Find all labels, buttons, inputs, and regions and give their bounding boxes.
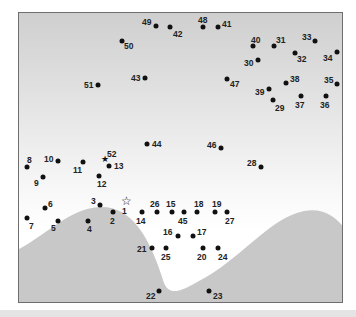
dot-label: 41	[222, 20, 231, 29]
dot-label: 47	[230, 80, 239, 89]
dot-4[interactable]	[86, 219, 91, 224]
dot-label: 46	[207, 141, 216, 150]
dot-43[interactable]	[143, 76, 148, 81]
dot-3[interactable]	[98, 203, 103, 208]
dot-label: 8	[27, 156, 32, 165]
dot-14[interactable]	[140, 210, 145, 215]
dot-label: 12	[97, 180, 106, 189]
dot-label: 6	[48, 200, 53, 209]
hills-background	[19, 13, 343, 303]
dot-label: 1	[122, 207, 127, 216]
dot-label: 30	[244, 59, 253, 68]
dot-label: 44	[152, 140, 161, 149]
dot-37[interactable]	[299, 94, 304, 99]
dot-label: 51	[84, 81, 93, 90]
dot-21[interactable]	[150, 246, 155, 251]
puzzle-canvas[interactable]: ☆123456789101112131415161718192021222324…	[18, 12, 343, 303]
dot-label: 9	[34, 179, 39, 188]
dot-label: 5	[51, 224, 56, 233]
dot-47[interactable]	[225, 77, 230, 82]
dot-51[interactable]	[96, 83, 101, 88]
dot-label: 2	[110, 217, 115, 226]
dot-label: 52	[107, 150, 116, 159]
dot-46[interactable]	[219, 146, 224, 151]
dot-label: 34	[323, 54, 332, 63]
dot-26[interactable]	[155, 210, 160, 215]
dot-33[interactable]	[313, 39, 318, 44]
dot-16[interactable]	[176, 234, 181, 239]
dot-30[interactable]	[256, 58, 261, 63]
dot-19[interactable]	[213, 210, 218, 215]
dot-label: 23	[213, 292, 222, 301]
dot-label: 11	[73, 166, 82, 175]
dot-39[interactable]	[267, 87, 272, 92]
dot-38[interactable]	[284, 81, 289, 86]
dot-20[interactable]	[201, 246, 206, 251]
dot-label: 28	[247, 159, 256, 168]
dot-5[interactable]	[56, 219, 61, 224]
dot-49[interactable]	[154, 24, 159, 29]
dot-label: 45	[178, 217, 187, 226]
dot-label: 42	[173, 30, 182, 39]
dot-12[interactable]	[97, 174, 102, 179]
dot-45[interactable]	[182, 210, 187, 215]
dot-label: 24	[218, 253, 227, 262]
dot-label: 32	[297, 55, 306, 64]
dot-27[interactable]	[225, 210, 230, 215]
dot-label: 37	[295, 101, 304, 110]
dot-label: 16	[163, 228, 172, 237]
dot-label: 48	[198, 16, 207, 25]
dot-44[interactable]	[145, 142, 150, 147]
dot-label: 15	[166, 200, 175, 209]
dot-label: 27	[225, 217, 234, 226]
dot-23[interactable]	[207, 289, 212, 294]
dot-label: 40	[251, 36, 260, 45]
dot-label: 7	[29, 222, 34, 231]
dot-label: 25	[161, 253, 170, 262]
dot-15[interactable]	[170, 210, 175, 215]
dot-2[interactable]	[111, 210, 116, 215]
dot-label: 26	[150, 200, 159, 209]
dot-label: 36	[320, 101, 329, 110]
dot-6[interactable]	[43, 206, 48, 211]
dot-label: 38	[290, 75, 299, 84]
dot-label: 4	[87, 225, 92, 234]
dot-label: 14	[136, 217, 145, 226]
dot-label: 19	[212, 200, 221, 209]
dot-label: 22	[146, 292, 155, 301]
dot-label: 17	[197, 228, 206, 237]
dot-24[interactable]	[216, 246, 221, 251]
dot-label: 29	[275, 104, 284, 113]
dot-11[interactable]	[81, 160, 86, 165]
dot-41[interactable]	[216, 25, 221, 30]
dot-28[interactable]	[259, 165, 264, 170]
dot-label: 3	[91, 197, 96, 206]
dot-label: 39	[255, 88, 264, 97]
dot-label: 21	[137, 245, 146, 254]
dot-8[interactable]	[25, 165, 30, 170]
dot-label: 18	[194, 200, 203, 209]
dot-25[interactable]	[164, 246, 169, 251]
dot-17[interactable]	[191, 234, 196, 239]
dot-18[interactable]	[195, 210, 200, 215]
dot-label: 50	[124, 42, 133, 51]
dot-35[interactable]	[335, 82, 340, 87]
dot-36[interactable]	[324, 94, 329, 99]
bottom-bar	[0, 310, 356, 317]
dot-29[interactable]	[271, 98, 276, 103]
dot-10[interactable]	[56, 159, 61, 164]
dot-label: 49	[142, 18, 151, 27]
dot-label: 35	[324, 76, 333, 85]
dot-9[interactable]	[41, 175, 46, 180]
dot-label: 33	[302, 33, 311, 42]
dot-label: 43	[131, 74, 140, 83]
dot-label: 20	[197, 253, 206, 262]
dot-48[interactable]	[201, 25, 206, 30]
dot-34[interactable]	[335, 50, 340, 55]
dot-22[interactable]	[157, 289, 162, 294]
dot-42[interactable]	[168, 25, 173, 30]
dot-label: 13	[114, 162, 123, 171]
dot-label: 31	[276, 36, 285, 45]
dot-7[interactable]	[25, 216, 30, 221]
dot-label: 10	[44, 155, 53, 164]
